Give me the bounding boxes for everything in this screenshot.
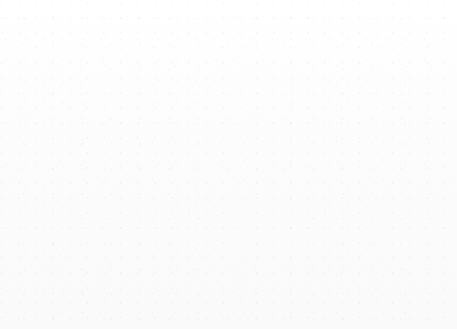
bar-dark xyxy=(417,83,428,240)
bar-light xyxy=(59,155,70,240)
x-axis-tick-slot: Copyright xyxy=(194,241,244,303)
bar-dark xyxy=(70,109,81,240)
bar-light xyxy=(108,132,119,240)
bar-light xyxy=(208,149,219,240)
bar-group xyxy=(257,46,279,240)
chart-title: Share of innovating UK firms rating diff… xyxy=(0,5,457,29)
bar-light xyxy=(357,116,368,240)
bar-group xyxy=(158,46,180,240)
bar-dark xyxy=(268,70,279,240)
bar-light xyxy=(406,67,417,240)
bar-dark xyxy=(368,103,379,240)
bar-dark xyxy=(169,64,180,240)
chart-title-line-2: protection as moderately or highly impor… xyxy=(0,17,457,29)
bar-group xyxy=(208,46,230,240)
x-axis: DesignTrademarkPatentCopyrightConfidenti… xyxy=(44,241,443,303)
x-axis-tick-slot: Secrecy xyxy=(293,241,343,303)
y-axis-tick-label: 0% xyxy=(23,236,36,246)
source-note: Source: Hall et al. (2013) xyxy=(27,300,128,310)
bar-group xyxy=(59,46,81,240)
y-axis-tick-label: 40% xyxy=(18,105,36,115)
bar-group xyxy=(406,46,428,240)
chart-title-line-1: Share of innovating UK firms rating diff… xyxy=(0,5,457,17)
x-axis-tick-slot: Confidentiality xyxy=(244,241,294,303)
bar-group xyxy=(108,46,130,240)
bar-dark xyxy=(318,80,329,240)
bar-dark xyxy=(219,132,230,240)
bar-light xyxy=(158,152,169,240)
y-axis-tick-label: 20% xyxy=(18,171,36,181)
bar-light xyxy=(257,73,268,240)
x-axis-tick-slot: Complexity xyxy=(343,241,393,303)
y-axis-tick-label: 30% xyxy=(18,138,36,148)
bar-group xyxy=(357,46,379,240)
x-axis-tick-slot: Design xyxy=(44,241,94,303)
bar-dark xyxy=(119,100,130,240)
x-axis-tick-slot: Leadtime xyxy=(393,241,443,303)
y-axis-tick-label: 60% xyxy=(18,40,36,50)
x-axis-tick-slot: Patent xyxy=(144,241,194,303)
x-axis-tick-slot: Trademark xyxy=(94,241,144,303)
bar-group xyxy=(307,46,329,240)
bar-light xyxy=(307,86,318,240)
y-axis: 60%50%40%30%20%10%0% xyxy=(0,45,40,241)
plot-area xyxy=(44,45,443,241)
y-axis-tick-label: 10% xyxy=(18,203,36,213)
bar-series-container xyxy=(45,46,442,240)
bar-chart-figure: Share of innovating UK firms rating diff… xyxy=(0,0,457,329)
y-axis-tick-label: 50% xyxy=(18,73,36,83)
